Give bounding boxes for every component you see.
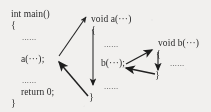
call-flow-diagram: int main() { ...... a(···); ...... retur… <box>0 0 211 112</box>
arrow-return-b-to-a <box>126 68 155 74</box>
arrow-call-main-to-a <box>59 17 86 56</box>
arrow-layer <box>0 0 211 112</box>
arrow-return-a-to-main <box>59 62 88 96</box>
arrow-call-a-to-b <box>126 50 152 64</box>
